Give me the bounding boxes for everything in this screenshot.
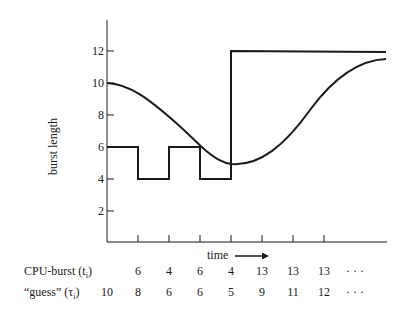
cpu-burst-value: 4	[154, 264, 184, 279]
guess-value: 10	[92, 285, 122, 300]
cpu-burst-ellipsis: · · ·	[340, 264, 370, 279]
guess-value: 6	[154, 285, 184, 300]
guess-value: 8	[123, 285, 153, 300]
guess-value: 11	[278, 285, 308, 300]
x-ticks	[138, 235, 324, 242]
guess-value: 6	[185, 285, 215, 300]
y-axis-label: burst length	[46, 118, 61, 175]
cpu-burst-value: 13	[247, 264, 277, 279]
guess-row-label: “guess” (τi)	[24, 285, 79, 301]
cpu-burst-value: 4	[216, 264, 246, 279]
x-axis-label: time	[207, 248, 228, 263]
guess-ellipsis: · · ·	[340, 285, 370, 300]
y-tick-label: 2	[84, 204, 104, 219]
guess-value: 12	[309, 285, 339, 300]
y-tick-label: 6	[84, 140, 104, 155]
cpu-burst-value: 13	[278, 264, 308, 279]
cpu-burst-value: 6	[185, 264, 215, 279]
guess-value: 9	[247, 285, 277, 300]
y-tick-label: 4	[84, 172, 104, 187]
y-ticks	[107, 51, 114, 211]
y-tick-label: 12	[84, 44, 104, 59]
time-arrow-head	[262, 253, 269, 260]
cpu-burst-row-label: CPU-burst (ti)	[24, 264, 92, 280]
cpu-burst-value: 6	[123, 264, 153, 279]
guess-series	[107, 59, 386, 164]
cpu-burst-series	[107, 51, 386, 179]
y-tick-label: 10	[84, 76, 104, 91]
guess-value: 5	[216, 285, 246, 300]
y-tick-label: 8	[84, 108, 104, 123]
cpu-burst-value: 13	[309, 264, 339, 279]
